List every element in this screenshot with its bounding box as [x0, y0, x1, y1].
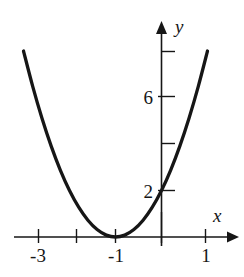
x-tick-label-pos1: 1	[201, 246, 211, 265]
x-tick-label-neg1: -1	[108, 246, 124, 265]
x-axis-label: x	[213, 206, 221, 225]
x-axis-arrowhead	[227, 232, 239, 243]
y-tick-label-2: 2	[144, 182, 154, 201]
y-axis-arrowhead	[156, 21, 167, 34]
parabola-curve	[24, 51, 208, 237]
graph-canvas	[0, 0, 244, 277]
math-graph-figure: y x -3 -1 1 6 2	[0, 0, 244, 277]
x-tick-label-neg3: -3	[30, 246, 46, 265]
y-axis-label: y	[175, 17, 183, 36]
y-tick-label-6: 6	[144, 88, 154, 107]
